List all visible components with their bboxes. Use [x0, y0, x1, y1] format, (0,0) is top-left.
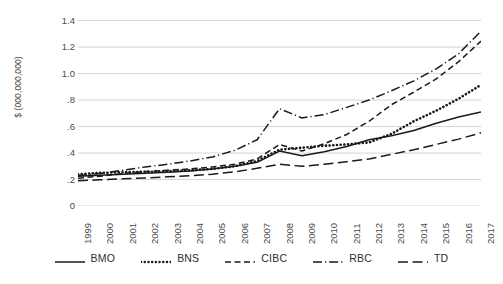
legend-label: CIBC	[261, 252, 287, 264]
y-axis-tick-label: 0	[35, 201, 75, 211]
x-axis-tick-label: 2014	[418, 223, 429, 244]
x-axis-tick-label: 2002	[149, 223, 160, 244]
x-axis-tick-label: 2016	[463, 223, 474, 244]
dash-dot-line-icon	[313, 253, 343, 263]
y-axis-tick-label: 1.0	[35, 69, 75, 79]
x-axis-tick-label: 2000	[104, 223, 115, 244]
x-axis-tick-label: 1999	[82, 223, 93, 244]
x-axis-tick-labels: 1999200020012002200320042005200620072008…	[78, 208, 481, 250]
series-line-bns	[78, 85, 481, 174]
series-line-rbc	[78, 31, 481, 175]
x-axis-tick-label: 2006	[239, 223, 250, 244]
x-axis-tick-label: 2017	[485, 223, 496, 244]
legend-item-bmo[interactable]: BMO	[55, 252, 116, 264]
x-axis-tick-label: 2007	[261, 223, 272, 244]
x-axis-tick-label: 2011	[351, 224, 362, 244]
x-axis-tick-label: 2009	[306, 223, 317, 244]
legend-label: BMO	[91, 252, 116, 264]
x-axis-tick-label: 2015	[440, 223, 451, 244]
chart-legend: BMOBNSCIBCRBCTD	[0, 252, 503, 264]
legend-item-cibc[interactable]: CIBC	[225, 252, 287, 264]
x-axis-tick-label: 2004	[194, 223, 205, 244]
y-axis-tick-label: .4	[35, 148, 75, 158]
y-axis-tick-label: 1.2	[35, 42, 75, 52]
x-axis-tick-label: 2005	[216, 223, 227, 244]
legend-item-td[interactable]: TD	[398, 252, 448, 264]
legend-label: BNS	[177, 252, 199, 264]
series-line-bmo	[78, 112, 481, 176]
y-axis-title: $ (000,000,000)	[13, 17, 23, 157]
x-axis-tick-label: 2008	[284, 223, 295, 244]
dashed-line-icon	[225, 253, 255, 263]
plot-svg	[78, 14, 481, 206]
y-axis-tick-label: .2	[35, 175, 75, 185]
legend-label: RBC	[349, 252, 372, 264]
y-axis-tick-label: 1.4	[35, 16, 75, 26]
x-axis-tick-label: 2003	[172, 223, 183, 244]
x-axis-tick-label: 2010	[328, 223, 339, 244]
legend-item-rbc[interactable]: RBC	[313, 252, 372, 264]
legend-label: TD	[434, 252, 448, 264]
legend-item-bns[interactable]: BNS	[141, 252, 199, 264]
x-axis-tick-label: 2012	[373, 223, 384, 244]
chart-container: $ (000,000,000) 1.41.21.0.8.6.4.20 19992…	[0, 0, 503, 284]
dotted-line-icon	[141, 253, 171, 263]
x-axis-tick-label: 2001	[127, 223, 138, 244]
y-axis-tick-labels: 1.41.21.0.8.6.4.20	[30, 0, 75, 220]
plot-area	[78, 14, 481, 206]
solid-line-icon	[55, 253, 85, 263]
y-axis-tick-label: .8	[35, 95, 75, 105]
y-axis-tick-label: .6	[35, 122, 75, 132]
long-dash-line-icon	[398, 253, 428, 263]
series-line-cibc	[78, 41, 481, 178]
x-axis-tick-label: 2013	[395, 223, 406, 244]
